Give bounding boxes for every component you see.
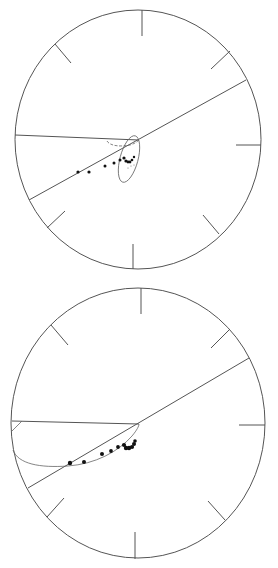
- data-point: [129, 161, 132, 164]
- data-point: [76, 170, 79, 173]
- data-point: [116, 445, 120, 449]
- plane-trace-line: [15, 135, 139, 140]
- stereonet-bottom: [0, 284, 278, 568]
- data-point: [122, 156, 125, 159]
- demagnetization-path: [107, 140, 139, 146]
- data-point: [87, 170, 90, 173]
- data-point: [100, 452, 104, 456]
- minor-data-mark: [130, 165, 131, 166]
- data-point: [131, 159, 134, 162]
- plane-trace-line: [28, 358, 249, 488]
- azimuth-tick: [51, 325, 68, 345]
- stereonet-top: [0, 0, 278, 284]
- edge-arc: [12, 421, 22, 431]
- data-point: [133, 439, 137, 443]
- data-point: [104, 165, 107, 168]
- plane-trace-line: [29, 80, 246, 200]
- confidence-ellipse: [114, 133, 144, 184]
- data-point: [82, 460, 86, 464]
- azimuth-tick: [55, 44, 71, 63]
- azimuth-tick: [211, 329, 230, 348]
- plane-trace-line: [12, 421, 139, 424]
- stereonet-bottom-plot: [0, 284, 278, 568]
- data-point: [119, 159, 122, 162]
- azimuth-tick: [211, 51, 230, 69]
- azimuth-tick: [47, 498, 64, 517]
- minor-data-mark: [127, 167, 128, 168]
- stereonet-top-plot: [0, 0, 278, 284]
- minor-data-mark: [133, 164, 134, 165]
- data-point: [68, 461, 72, 465]
- data-point: [109, 449, 113, 453]
- azimuth-tick: [208, 501, 225, 520]
- data-point: [133, 156, 135, 158]
- azimuth-tick: [203, 215, 219, 234]
- data-point: [113, 162, 116, 165]
- azimuth-tick: [47, 211, 65, 228]
